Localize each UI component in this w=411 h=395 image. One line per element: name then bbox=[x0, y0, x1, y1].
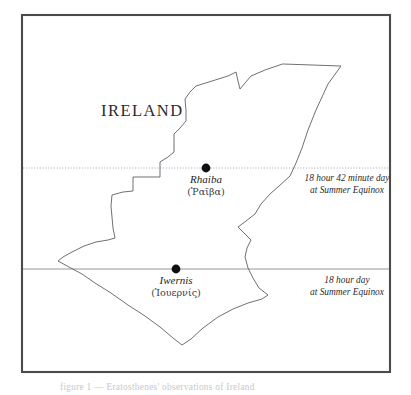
latitude-note-upper-line2: at Summer Equinox bbox=[287, 184, 407, 196]
map-figure: IRELAND Rhaiba (Ῥαῖβα) Iwernis (Ἰουερνίς… bbox=[0, 0, 411, 395]
latitude-note-lower-line2: at Summer Equinox bbox=[287, 286, 407, 298]
city-label-rhaiba: Rhaiba (Ῥαῖβα) bbox=[141, 173, 271, 198]
city-dot-iwernis[interactable] bbox=[172, 265, 181, 274]
city-dot-rhaiba[interactable] bbox=[202, 164, 211, 173]
city-latin-name-rhaiba: Rhaiba bbox=[141, 173, 271, 186]
city-greek-name-iwernis: (Ἰουερνίς) bbox=[111, 287, 241, 299]
latitude-note-lower-line1: 18 hour day bbox=[287, 274, 407, 286]
latitude-note-lower: 18 hour day at Summer Equinox bbox=[287, 274, 407, 299]
country-label-ireland: IRELAND bbox=[101, 101, 184, 121]
city-latin-name-iwernis: Iwernis bbox=[111, 274, 241, 287]
latitude-note-upper: 18 hour 42 minute day at Summer Equinox bbox=[287, 172, 407, 197]
city-greek-name-rhaiba: (Ῥαῖβα) bbox=[141, 186, 271, 198]
latitude-note-upper-line1: 18 hour 42 minute day bbox=[287, 172, 407, 184]
city-label-iwernis: Iwernis (Ἰουερνίς) bbox=[111, 274, 241, 299]
figure-caption: figure 1 — Eratosthenes' observations of… bbox=[60, 381, 360, 394]
